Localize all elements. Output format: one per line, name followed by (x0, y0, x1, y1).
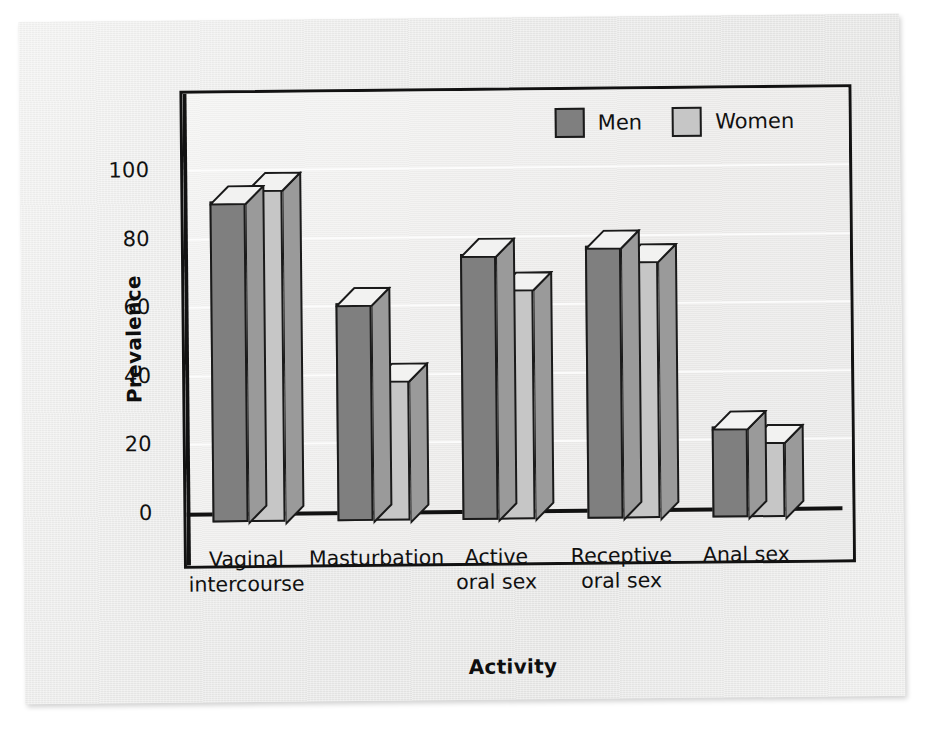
bar-top-face (209, 185, 245, 203)
bar-front-face (712, 426, 749, 517)
bar-chart-figure: Men Women 020406080100 Vaginal intercour… (157, 62, 862, 569)
bar-side-face (409, 362, 429, 520)
legend-label-women: Women (715, 109, 794, 134)
bar-front-face (209, 201, 248, 522)
gridlines (182, 87, 848, 93)
x-category-label-4: Anal sex (684, 542, 809, 568)
x-category-label-2: Active oral sex (434, 544, 559, 595)
legend-label-men: Men (598, 110, 643, 134)
bars-layer (182, 87, 848, 93)
y-tick-labels: 020406080100 (157, 62, 857, 69)
y-axis-title: Prevalence (121, 275, 146, 403)
bar-men-3 (585, 230, 624, 519)
plot-frame: Men Women (179, 84, 856, 568)
bar-top-face (712, 410, 748, 428)
y-tick-mark-80 (179, 238, 183, 241)
bar-men-1 (335, 287, 373, 521)
bar-side-face (621, 230, 642, 519)
bar-top-face (585, 230, 621, 248)
x-category-label-3: Receptive oral sex (559, 543, 684, 594)
bar-men-0 (209, 185, 248, 522)
y-tick-label-0: 0 (139, 501, 153, 525)
legend-swatch-women-icon (672, 107, 702, 137)
bar-front-face (335, 303, 373, 521)
x-category-labels: Vaginal intercourseMasturbationActive or… (157, 62, 857, 69)
y-tick-mark-60 (179, 307, 184, 310)
scanned-page-sheet: Men Women 020406080100 Vaginal intercour… (19, 14, 906, 704)
bar-top-face (460, 238, 496, 256)
bar-side-face (282, 171, 303, 522)
bar-side-face (496, 238, 517, 520)
y-tick-mark-100 (179, 170, 183, 173)
bar-front-face (585, 246, 624, 519)
bar-front-face (460, 254, 499, 520)
bar-top-face (335, 287, 371, 305)
bar-men-4 (712, 410, 749, 517)
y-tick-mark-20 (179, 444, 185, 447)
legend-item-men: Men (555, 107, 643, 138)
chart-legend: Men Women (555, 106, 795, 138)
y-axis-line (182, 94, 191, 566)
axis-layer (182, 87, 848, 93)
y-tick-label-80: 80 (123, 227, 150, 251)
bar-side-face (245, 185, 266, 522)
bar-men-2 (460, 238, 499, 520)
legend-item-women: Women (672, 106, 794, 137)
x-category-label-0: Vaginal intercourse (184, 546, 309, 597)
y-tick-label-20: 20 (125, 432, 152, 456)
bar-side-face (371, 287, 391, 521)
bar-side-face (658, 243, 679, 518)
bar-side-face (533, 272, 553, 520)
y-tick-mark-0 (179, 513, 186, 516)
y-tick-label-100: 100 (108, 158, 149, 182)
x-category-label-1: Masturbation (309, 545, 434, 571)
x-axis-title: Activity (163, 651, 863, 682)
y-tick-mark-40 (179, 375, 185, 378)
legend-swatch-men-icon (555, 108, 585, 138)
